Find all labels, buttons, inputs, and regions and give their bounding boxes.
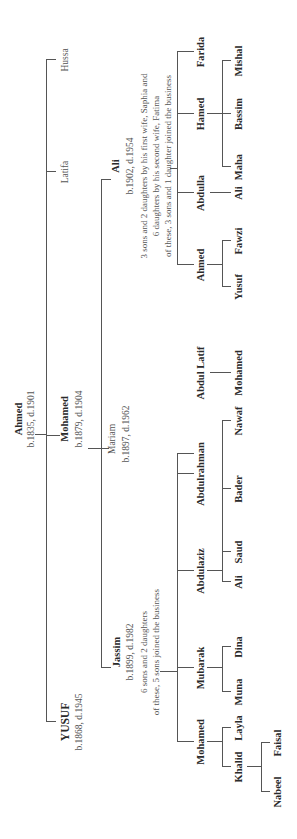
person-name: Yusuf — [234, 274, 245, 300]
connector — [222, 241, 223, 287]
connector — [207, 264, 222, 265]
person-dates: b.1835, d.1901 — [27, 391, 37, 448]
connector — [177, 570, 194, 571]
person-name: Khalid — [234, 752, 245, 783]
connector — [222, 766, 231, 767]
person-name: Mishal — [234, 46, 245, 77]
person-name: Farida — [196, 37, 207, 67]
connector — [46, 171, 56, 172]
person-note: of these, 5 sons joined the business — [151, 589, 162, 715]
generation-line — [46, 60, 47, 722]
connector — [261, 791, 270, 792]
connector — [222, 113, 231, 114]
connector — [222, 691, 231, 692]
connector — [46, 435, 60, 436]
person-name: Mariam — [108, 424, 118, 454]
children-line — [177, 52, 178, 265]
connector — [222, 61, 223, 167]
generation-line — [101, 180, 102, 668]
connector — [177, 264, 194, 265]
connector — [207, 667, 222, 668]
connector — [160, 671, 177, 672]
person-name: Maha — [234, 154, 245, 180]
person-dates: b.1902, d.1954 — [126, 138, 136, 195]
person-name: Abdulla — [196, 175, 207, 211]
connector — [222, 60, 231, 61]
person-name: Ahmed — [196, 249, 207, 282]
connector — [101, 179, 111, 180]
person-name: Muna — [234, 679, 245, 706]
person-note: 6 daughters by his second wife, Fatima — [151, 96, 162, 237]
connector — [88, 448, 101, 449]
family-tree-diagram: Ahmed b.1835, d.1901 YUSUF b.1868, d.194… — [0, 0, 297, 839]
person-name: Bader — [234, 475, 245, 502]
connector — [222, 420, 231, 421]
person-note: 6 sons and 2 daughters — [139, 611, 150, 693]
person-name: Faisal — [273, 730, 284, 757]
connector — [222, 727, 231, 728]
connector — [207, 741, 222, 742]
connector — [177, 51, 194, 52]
connector — [177, 667, 194, 668]
person-name: Mubarak — [196, 647, 207, 690]
person-name: Latifa — [61, 161, 71, 184]
person-name: YUSUF — [60, 703, 72, 741]
connector — [222, 286, 231, 287]
person-name: Ahmed — [14, 403, 25, 436]
connector — [177, 453, 194, 454]
person-note: 3 sons and 2 daughters by his first wife… — [139, 73, 150, 258]
person-note: of these, 3 sons and 1 daughter joined t… — [163, 75, 174, 257]
connector — [222, 240, 231, 241]
connector — [222, 421, 223, 582]
connector — [207, 570, 222, 571]
person-name: Ali — [111, 159, 122, 172]
person-name: Ali — [234, 575, 245, 588]
person-name: Nabeel — [273, 777, 284, 808]
person-name: Saud — [234, 541, 245, 564]
connector — [177, 473, 194, 474]
person-name: Abdulrahman — [196, 442, 207, 506]
connector — [222, 646, 231, 647]
person-name: Ali — [234, 186, 245, 199]
person-name: Layla — [234, 715, 245, 741]
person-name: Dina — [234, 636, 245, 658]
person-dates: b.1897, d.1962 — [122, 406, 132, 463]
connector — [261, 743, 262, 792]
person-dates: b.1868, d.1945 — [75, 694, 85, 751]
connector — [177, 192, 194, 193]
connector — [222, 581, 231, 582]
connector — [210, 372, 231, 373]
connector — [46, 59, 56, 60]
person-name: Hussa — [61, 48, 71, 71]
connector — [222, 166, 231, 167]
connector — [177, 741, 194, 742]
person-name: Jassim — [112, 637, 123, 667]
person-name: Abdulaziz — [196, 548, 207, 594]
connector — [210, 192, 231, 193]
person-name: Fawzi — [234, 228, 245, 255]
person-name: Hamed — [196, 98, 207, 131]
connector — [222, 728, 223, 767]
person-name: Nawaf — [234, 406, 245, 435]
person-name: Bassim — [234, 98, 245, 130]
connector — [177, 113, 194, 114]
connector — [222, 551, 231, 552]
person-name: Mohamed — [60, 396, 71, 442]
person-dates: b.1879, d.1904 — [75, 391, 85, 448]
connector — [101, 667, 111, 668]
connector — [222, 647, 223, 692]
children-line — [177, 454, 178, 742]
connector — [207, 113, 222, 114]
person-name: Abdul Latif — [196, 347, 207, 400]
connector — [222, 488, 231, 489]
person-name: Mohamed — [196, 719, 207, 765]
person-dates: b.1899, d.1982 — [126, 624, 136, 681]
connector — [46, 721, 56, 722]
person-name: Mohamed — [234, 350, 245, 396]
connector — [247, 766, 261, 767]
connector — [261, 742, 270, 743]
